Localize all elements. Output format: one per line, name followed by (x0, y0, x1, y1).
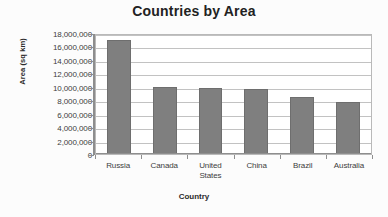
y-axis-tick-label: 14,000,000 (53, 56, 92, 65)
bar-chart: Countries by Area Area (sq km) 18,000,00… (0, 0, 388, 217)
y-axis-tick-mark (88, 155, 94, 156)
y-axis-title: Area (sq km) (18, 14, 27, 110)
bar-slot (142, 35, 188, 154)
bar-slot (188, 35, 234, 154)
bar-series (96, 35, 371, 154)
y-axis-tick-label: 18,000,000 (53, 30, 92, 39)
x-axis-tick-labels: RussiaCanadaUnited StatesChinaBrazilAust… (95, 161, 372, 181)
bar-slot (96, 35, 142, 154)
y-axis-tick-label: 12,000,000 (53, 70, 92, 79)
plot-area (95, 34, 372, 155)
y-axis-tick-mark (88, 115, 94, 116)
x-axis-tick-mark (234, 155, 235, 159)
x-axis-tick-label: United States (187, 161, 233, 181)
x-axis-tick-label: Australia (326, 161, 372, 181)
chart-title: Countries by Area (0, 3, 388, 19)
x-axis-tick-label: Canada (141, 161, 187, 181)
y-axis-tick-mark (88, 88, 94, 89)
x-axis-tick-label: China (234, 161, 280, 181)
y-axis-tick-label: 10,000,000 (53, 83, 92, 92)
y-axis-tick-label: 6,000,000 (57, 110, 92, 119)
bar-slot (233, 35, 279, 154)
x-axis-tick-mark (280, 155, 281, 159)
bar[interactable] (336, 102, 360, 154)
x-axis-tick-mark (326, 155, 327, 159)
bar-slot (325, 35, 371, 154)
x-axis-title: Country (0, 192, 388, 201)
y-axis-tick-mark (88, 74, 94, 75)
x-axis-tick-label: Russia (95, 161, 141, 181)
x-axis-tick-mark (95, 155, 96, 159)
y-axis-tick-mark (88, 47, 94, 48)
y-axis-tick-mark (88, 142, 94, 143)
x-axis-tick-mark (187, 155, 188, 159)
y-axis-tick-label: 8,000,000 (57, 97, 92, 106)
bar-slot (279, 35, 325, 154)
x-axis-line (96, 153, 371, 154)
y-axis-tick-mark (88, 101, 94, 102)
y-axis-tick-label: 16,000,000 (53, 43, 92, 52)
y-axis-tick-mark (88, 128, 94, 129)
y-axis-tick-label: 4,000,000 (57, 124, 92, 133)
x-axis-tick-label: Brazil (280, 161, 326, 181)
y-axis-tick-label: 2,000,000 (57, 137, 92, 146)
bar[interactable] (244, 89, 268, 154)
y-axis-tick-mark (88, 34, 94, 35)
x-axis-tick-mark (141, 155, 142, 159)
y-axis-tick-mark (88, 61, 94, 62)
bar[interactable] (153, 87, 177, 154)
y-axis-tick-labels: 18,000,00016,000,00014,000,00012,000,000… (30, 31, 92, 157)
bar[interactable] (290, 97, 314, 154)
bar[interactable] (199, 88, 223, 154)
bar[interactable] (107, 40, 131, 154)
x-axis-tick-mark (372, 155, 373, 159)
